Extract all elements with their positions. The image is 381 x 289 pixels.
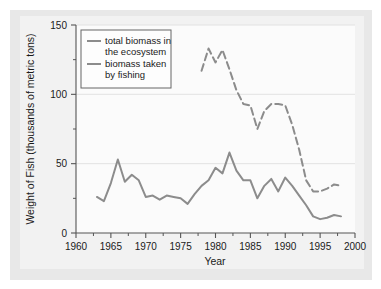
y-axis-ticks: [71, 25, 76, 233]
x-tick-label-1975: 1975: [170, 241, 193, 252]
y-tick-labels: 050100150: [50, 20, 67, 239]
x-tick-label-1995: 1995: [309, 241, 332, 252]
legend-label-fishing-biomass-line1: biomass taken: [105, 58, 166, 69]
legend-label-total-biomass-line2: the ecosystem: [105, 46, 166, 57]
y-axis-title: Weight of Fish (thousands of metric tons…: [24, 33, 36, 224]
line-chart: 050100150 196019651970197519801985199019…: [0, 0, 381, 289]
x-tick-label-1965: 1965: [100, 241, 123, 252]
figure-root: 050100150 196019651970197519801985199019…: [0, 0, 381, 289]
x-axis-ticks: [76, 233, 355, 238]
legend-label-fishing-biomass-line2: by fishing: [105, 69, 145, 80]
x-tick-label-1985: 1985: [239, 241, 262, 252]
x-tick-label-1980: 1980: [204, 241, 227, 252]
legend-label-total-biomass-line1: total biomass in: [105, 35, 171, 46]
x-tick-label-1960: 1960: [65, 241, 88, 252]
y-tick-label-100: 100: [50, 89, 67, 100]
y-tick-label-0: 0: [61, 228, 67, 239]
x-tick-label-1990: 1990: [274, 241, 297, 252]
y-tick-label-150: 150: [50, 20, 67, 31]
chart-legend: total biomass in the ecosystem biomass t…: [81, 30, 171, 88]
y-tick-label-50: 50: [56, 158, 68, 169]
x-axis-title: Year: [204, 255, 226, 267]
x-tick-labels: 196019651970197519801985199019952000: [65, 241, 367, 252]
x-tick-label-1970: 1970: [135, 241, 158, 252]
x-tick-label-2000: 2000: [344, 241, 367, 252]
